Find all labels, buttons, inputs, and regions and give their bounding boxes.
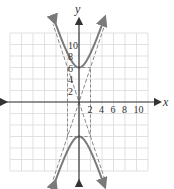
y-tick-label: 2 — [68, 86, 73, 97]
y-tick-label: 6 — [68, 63, 73, 74]
y-axis-label: y — [74, 2, 81, 16]
y-tick-label: 4 — [68, 74, 73, 85]
y-tick-label: 10 — [68, 40, 78, 51]
y-tick-label: 8 — [68, 51, 73, 62]
x-tick-label: 10 — [134, 104, 144, 115]
x-axis-label: x — [162, 95, 169, 109]
hyperbola-graph: 246810246810 x y — [0, 0, 174, 189]
axes — [4, 21, 158, 183]
x-tick-label: 4 — [99, 104, 104, 115]
x-tick-label: 8 — [122, 104, 127, 115]
x-tick-label: 6 — [111, 104, 116, 115]
x-tick-label: 2 — [88, 104, 93, 115]
